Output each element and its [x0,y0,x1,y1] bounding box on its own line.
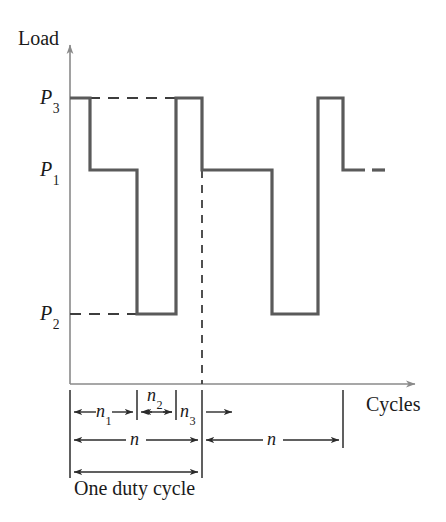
dim-n3-base: n [180,401,189,421]
dim-n3-sub: 3 [189,414,195,428]
dimension-label-n3: n3 [180,402,195,424]
dim-n2-sub: 2 [156,398,162,412]
dimension-label-n-second: n [267,430,276,448]
level-label-p2: P2 [40,303,59,328]
dimension-arrows [74,412,339,472]
level-label-p1: P1 [40,159,59,184]
axis-group [70,45,415,384]
level-p1-sub: 1 [53,173,60,188]
duty-cycle-label: One duty cycle [74,478,195,498]
level-label-p3: P3 [40,87,59,112]
dimension-label-n2: n2 [147,386,162,408]
load-waveform [70,98,385,314]
dim-n2-base: n [147,385,156,405]
level-p2-sub: 2 [53,317,60,332]
load-cycle-diagram [0,0,446,522]
dimension-label-n-first: n [130,430,139,448]
x-axis-label: Cycles [366,394,420,414]
level-p1-base: P [40,158,52,180]
waveform-path [70,98,365,314]
level-p2-base: P [40,302,52,324]
level-p3-base: P [40,86,52,108]
level-p3-sub: 3 [53,101,60,116]
figure-container: Load Cycles One duty cycle P3 P1 P2 n1 n… [0,0,446,522]
dimension-label-n1: n1 [96,402,111,424]
y-axis-label: Load [18,28,59,48]
dim-n1-sub: 1 [105,414,111,428]
dim-n1-base: n [96,401,105,421]
